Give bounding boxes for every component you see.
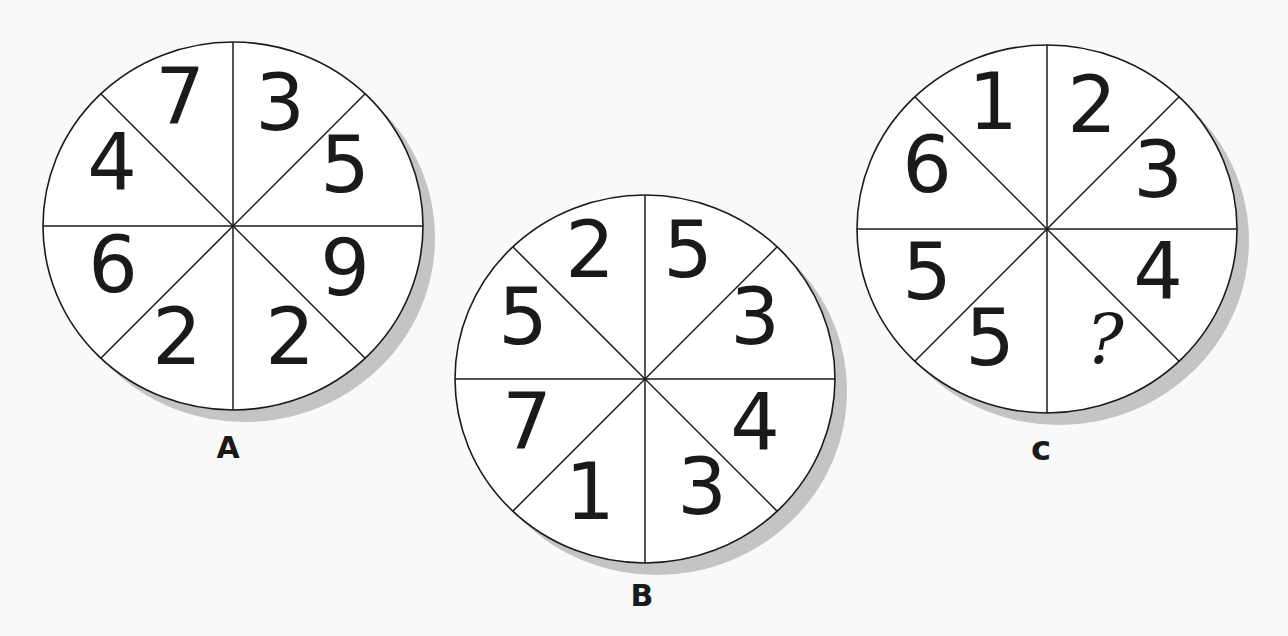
segment-number-right-top: 5 — [320, 120, 370, 210]
wheel-c: 1 2 3 4 ? 5 5 6 c — [857, 45, 1249, 468]
segment-number-top-right: 2 — [1067, 60, 1117, 150]
missing-number-question-mark: ? — [1086, 299, 1124, 381]
segment-number-right-bottom: 4 — [1133, 227, 1183, 317]
segment-number-top-left: 1 — [968, 57, 1018, 147]
segment-number-right-bottom: 4 — [730, 378, 780, 468]
segment-number-left-bottom: 5 — [902, 227, 952, 317]
segment-number-left-top: 4 — [87, 118, 137, 208]
segment-number-bottom-left: 1 — [565, 447, 615, 537]
segment-number-bottom-right: 3 — [677, 442, 727, 532]
wheel-b: 2 5 3 4 3 1 7 5 B — [455, 195, 847, 613]
wheel-label-b: B — [631, 578, 654, 613]
wheel-a: 7 3 5 9 2 2 6 4 A — [43, 42, 435, 465]
segment-number-top-right: 3 — [255, 58, 305, 148]
wheel-label-a: A — [216, 430, 240, 465]
segment-number-right-top: 3 — [1133, 125, 1183, 215]
segment-number-bottom-left: 2 — [152, 292, 202, 382]
segment-number-bottom-left: 5 — [965, 293, 1015, 383]
wheel-label-c: c — [1031, 428, 1051, 468]
segment-number-left-top: 6 — [902, 120, 952, 210]
number-wheel-puzzle: 7 3 5 9 2 2 6 4 A 2 5 3 4 3 1 7 — [0, 0, 1288, 636]
segment-number-bottom-right: 2 — [265, 292, 315, 382]
segment-number-top-left: 2 — [565, 205, 615, 295]
segment-number-top-right: 5 — [663, 205, 713, 295]
segment-number-top-left: 7 — [155, 52, 205, 142]
segment-number-left-bottom: 7 — [502, 377, 552, 467]
puzzle-canvas: 7 3 5 9 2 2 6 4 A 2 5 3 4 3 1 7 — [0, 0, 1288, 636]
segment-number-right-top: 3 — [730, 272, 780, 362]
segment-number-right-bottom: 9 — [320, 223, 370, 313]
segment-number-left-top: 5 — [498, 272, 548, 362]
segment-number-left-bottom: 6 — [88, 220, 138, 310]
